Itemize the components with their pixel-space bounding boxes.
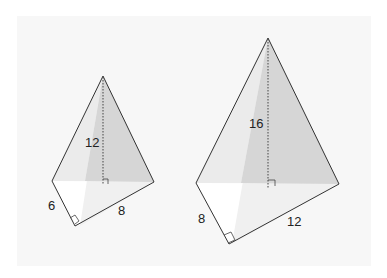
large-height-label: 16 xyxy=(249,116,263,131)
large-right-face xyxy=(241,38,339,184)
small-leg-b-label: 8 xyxy=(118,203,125,218)
small-pyramid xyxy=(52,76,154,226)
large-pyramid xyxy=(196,38,339,244)
small-leg-a-label: 6 xyxy=(48,198,55,213)
pyramids-diagram: 12 6 8 16 8 12 xyxy=(0,0,387,278)
large-leg-a-label: 8 xyxy=(198,211,205,226)
small-height-label: 12 xyxy=(85,135,99,150)
large-leg-b-label: 12 xyxy=(287,214,301,229)
